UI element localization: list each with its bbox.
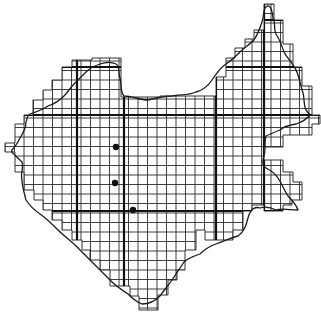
- sample-dot-icon: [130, 207, 136, 213]
- grid-map: [0, 0, 321, 320]
- region-border: [12, 6, 310, 304]
- sample-dot-icon: [112, 180, 118, 186]
- sample-dot-icon: [113, 144, 119, 150]
